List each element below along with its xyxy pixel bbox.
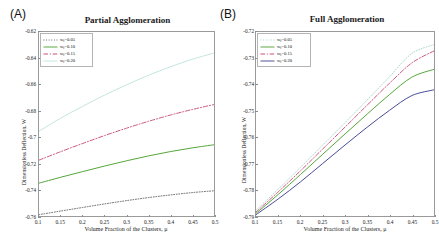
- panel-b-legend: wf =0.05wf =0.10wf =0.15wf =0.20: [257, 33, 311, 67]
- x-tick-label: 0.1: [252, 219, 259, 225]
- x-tick-label: 0.35: [144, 219, 153, 225]
- x-tick-label: 0.45: [188, 219, 197, 225]
- y-tick-label: -0.76: [13, 214, 36, 220]
- legend-label-value: =0.15: [281, 51, 292, 56]
- series-line: [39, 105, 214, 161]
- legend-label: wf =0.20: [60, 58, 75, 63]
- panel-b-x-axis-label: Volume Fraction of the Clusters, μ: [255, 226, 435, 232]
- legend-line-sample: [43, 44, 58, 50]
- legend-label-subscript: f: [63, 46, 64, 50]
- panel-b: (B) Full Agglomeration Dimensionless Def…: [219, 0, 439, 244]
- y-tick-label: -0.75: [230, 108, 254, 114]
- x-tick-label: 0.4: [387, 219, 394, 225]
- legend-label-subscript: f: [280, 39, 281, 43]
- x-tick-label: 0.15: [273, 219, 282, 225]
- y-tick-mark: [38, 217, 41, 218]
- panel-a-x-axis-label: Volume Fraction of the Clusters, μ: [38, 226, 214, 232]
- x-tick-label: 0.5: [212, 219, 219, 225]
- legend-line-sample: [43, 51, 58, 57]
- panel-a: (A) Partial Agglomeration Dimensionless …: [0, 0, 219, 244]
- legend-label-value: =0.20: [64, 58, 75, 63]
- y-tick-label: -0.66: [13, 81, 36, 87]
- legend-line-sample: [260, 44, 275, 50]
- x-tick-label: 0.3: [123, 219, 130, 225]
- series-line: [39, 191, 214, 215]
- panel-b-y-axis-label: Dimensionless Deflection, W: [241, 117, 247, 183]
- figure: (A) Partial Agglomeration Dimensionless …: [0, 0, 439, 244]
- legend-line-sample: [260, 37, 275, 43]
- panel-a-letter: (A): [10, 7, 26, 21]
- legend-label-value: =0.05: [64, 37, 75, 42]
- series-line: [256, 69, 434, 213]
- legend-label: wf =0.15: [277, 51, 292, 56]
- legend-item: wf =0.15: [43, 50, 89, 57]
- y-tick-label: -0.74: [230, 81, 254, 87]
- legend-item: wf =0.10: [43, 43, 89, 50]
- panel-b-title: Full Agglomeration: [257, 14, 437, 24]
- legend-item: wf =0.05: [43, 36, 89, 43]
- legend-label: wf =0.20: [277, 58, 292, 63]
- legend-line-sample: [43, 37, 58, 43]
- legend-label: wf =0.10: [60, 44, 75, 49]
- panel-b-letter: (B): [220, 7, 236, 21]
- legend-label-value: =0.05: [281, 37, 292, 42]
- legend-item: wf =0.05: [260, 36, 307, 43]
- y-tick-label: -0.72: [230, 28, 254, 34]
- y-tick-mark: [255, 217, 258, 218]
- legend-item: wf =0.15: [260, 50, 307, 57]
- x-tick-label: 0.2: [79, 219, 86, 225]
- legend-label: wf =0.05: [60, 37, 75, 42]
- legend-label-subscript: f: [280, 46, 281, 50]
- panel-a-y-axis-label: Dimensionless Deflection, W: [21, 119, 27, 185]
- legend-label-subscript: f: [280, 60, 281, 64]
- panel-a-title: Partial Agglomeration: [40, 15, 215, 25]
- legend-line-sample: [260, 51, 275, 57]
- x-tick-label: 0.5: [432, 219, 439, 225]
- legend-label-value: =0.10: [64, 44, 75, 49]
- x-tick-label: 0.25: [318, 219, 327, 225]
- x-tick-label: 0.15: [55, 219, 64, 225]
- legend-line-sample: [43, 58, 58, 64]
- y-tick-label: -0.74: [13, 187, 36, 193]
- legend-item: wf =0.20: [43, 57, 89, 64]
- legend-label: wf =0.15: [60, 51, 75, 56]
- legend-label-value: =0.10: [281, 44, 292, 49]
- x-tick-label: 0.4: [167, 219, 174, 225]
- x-tick-mark: [435, 215, 436, 218]
- legend-label: wf =0.05: [277, 37, 292, 42]
- x-tick-label: 0.35: [363, 219, 372, 225]
- y-tick-label: -0.78: [230, 187, 254, 193]
- y-tick-label: -0.62: [13, 28, 36, 34]
- series-line: [256, 90, 434, 215]
- legend-label-subscript: f: [63, 60, 64, 64]
- legend-label-value: =0.20: [281, 58, 292, 63]
- y-tick-label: -0.79: [230, 214, 254, 220]
- panel-a-legend: wf =0.05wf =0.10wf =0.15wf =0.20: [40, 33, 93, 67]
- series-line: [39, 145, 214, 183]
- x-tick-mark: [215, 215, 216, 218]
- legend-label-value: =0.15: [64, 51, 75, 56]
- x-tick-label: 0.1: [35, 219, 42, 225]
- y-tick-label: -0.73: [230, 55, 254, 61]
- legend-label-subscript: f: [280, 53, 281, 57]
- legend-label-subscript: f: [63, 39, 64, 43]
- y-tick-label: -0.68: [13, 108, 36, 114]
- legend-line-sample: [260, 58, 275, 64]
- x-tick-label: 0.45: [408, 219, 417, 225]
- x-tick-label: 0.3: [342, 219, 349, 225]
- y-tick-label: -0.64: [13, 55, 36, 61]
- legend-item: wf =0.20: [260, 57, 307, 64]
- x-tick-label: 0.2: [297, 219, 304, 225]
- legend-item: wf =0.10: [260, 43, 307, 50]
- series-line: [256, 51, 434, 212]
- legend-label-subscript: f: [63, 53, 64, 57]
- x-tick-label: 0.25: [100, 219, 109, 225]
- legend-label: wf =0.10: [277, 44, 292, 49]
